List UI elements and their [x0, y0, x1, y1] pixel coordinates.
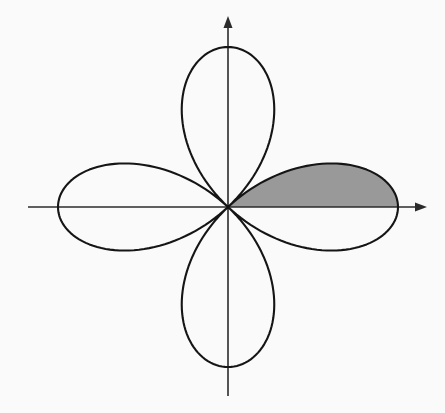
x-axis-arrow-icon	[415, 203, 427, 212]
polar-rose-plot	[0, 0, 445, 413]
shaded-sector	[228, 163, 398, 207]
y-axis-arrow-icon	[224, 16, 233, 28]
polar-rose-figure	[0, 0, 445, 413]
